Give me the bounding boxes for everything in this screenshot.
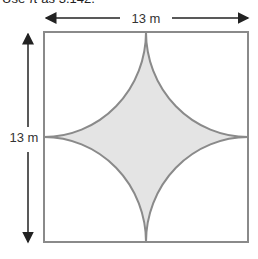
diagram: 13 m 13 m xyxy=(0,0,258,259)
shaded-region xyxy=(44,32,248,242)
width-label: 13 m xyxy=(132,11,161,26)
height-label: 13 m xyxy=(10,130,39,145)
